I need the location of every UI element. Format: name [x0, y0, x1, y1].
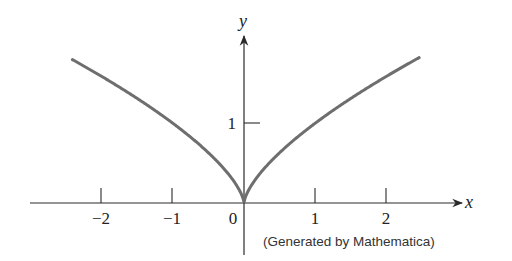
credit-annotation: (Generated by Mathematica) [263, 234, 435, 249]
curve-x-two-thirds [72, 58, 419, 203]
x-tick-label-1: 1 [311, 209, 320, 228]
x-tick-label-2: 2 [382, 209, 391, 228]
x-tick-label-neg2: −2 [92, 209, 110, 228]
x-axis-label: x [464, 192, 473, 212]
plot-area: −2 −1 0 1 2 1 x y [0, 0, 512, 261]
x-tick-label-neg1: −1 [163, 209, 181, 228]
x-tick-label-0: 0 [229, 209, 238, 228]
y-tick-label-1: 1 [228, 114, 237, 133]
y-axis-label: y [237, 11, 247, 31]
